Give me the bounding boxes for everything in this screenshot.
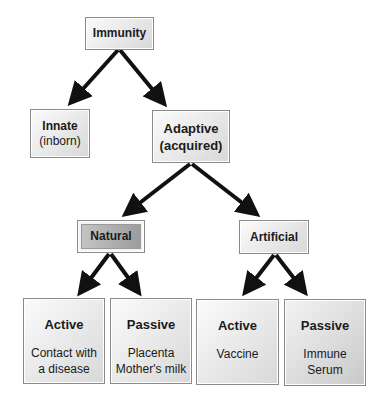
node-artificial-active: Active Vaccine xyxy=(196,299,279,385)
arrow-artificial-passive xyxy=(276,255,303,290)
node-adaptive: Adaptive (acquired) xyxy=(152,110,230,163)
node-innate-subtitle: (inborn) xyxy=(39,134,80,149)
node-natural-label: Natural xyxy=(90,229,131,244)
node-artificial-active-line1: Vaccine xyxy=(217,346,259,362)
node-natural-passive-line2: Mother's milk xyxy=(116,361,186,377)
node-artificial-passive-line2: Serum xyxy=(307,362,342,378)
node-artificial-passive-title: Passive xyxy=(301,318,349,333)
node-natural-passive-title: Passive xyxy=(127,317,175,332)
node-natural: Natural xyxy=(77,220,145,253)
node-innate-title: Innate xyxy=(42,119,77,134)
arrow-artificial-active xyxy=(247,255,274,290)
node-artificial-passive: Passive Immune Serum xyxy=(284,299,366,386)
node-innate: Innate (inborn) xyxy=(30,109,90,158)
node-natural-active: Active Contact with a disease xyxy=(23,298,105,384)
arrow-immunity-innate xyxy=(73,50,118,100)
node-natural-active-line2: a disease xyxy=(38,361,89,377)
node-artificial-passive-line1: Immune xyxy=(303,346,346,362)
node-adaptive-title: Adaptive xyxy=(164,120,219,137)
node-natural-active-title: Active xyxy=(44,317,83,332)
node-artificial-label: Artificial xyxy=(250,230,298,245)
node-natural-passive: Passive Placenta Mother's milk xyxy=(110,298,192,384)
node-natural-fill: Natural xyxy=(81,224,141,249)
node-natural-passive-line1: Placenta xyxy=(128,345,175,361)
arrow-immunity-adaptive xyxy=(120,50,162,101)
node-adaptive-subtitle: (acquired) xyxy=(160,137,223,154)
arrow-adaptive-natural xyxy=(128,164,190,212)
arrow-adaptive-artificial xyxy=(192,164,254,212)
node-artificial: Artificial xyxy=(239,220,309,254)
node-artificial-active-title: Active xyxy=(218,318,257,333)
node-natural-active-line1: Contact with xyxy=(31,345,97,361)
arrow-natural-passive xyxy=(111,254,137,290)
node-immunity: Immunity xyxy=(85,17,154,50)
node-immunity-label: Immunity xyxy=(93,26,146,41)
arrow-natural-active xyxy=(82,254,109,290)
